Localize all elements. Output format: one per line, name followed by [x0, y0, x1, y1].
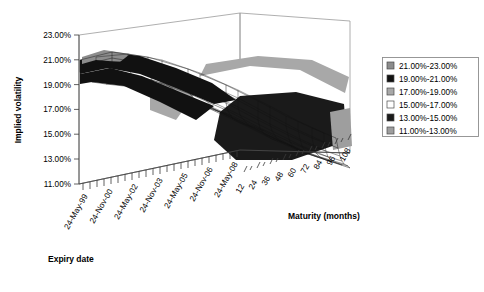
x-tick-label-4: 24-May-05 [162, 171, 190, 210]
legend-swatch-3[interactable] [387, 101, 394, 108]
x-axis-title: Expiry date [48, 254, 94, 264]
legend-swatch-4[interactable] [387, 114, 394, 121]
legend-swatch-2[interactable] [387, 88, 394, 95]
legend-label-3: 15.00%-17.00% [399, 101, 457, 110]
y-tick-label-0: 23.00% [43, 31, 71, 40]
surface-mesh [80, 50, 352, 168]
legend: 21.00%-23.00% 19.00%-21.00% 17.00%-19.00… [383, 58, 479, 137]
legend-swatch-5[interactable] [387, 127, 394, 134]
y-tick-label-6: 11.00% [44, 180, 71, 189]
y-axis: 23.00% 21.00% 19.00% 17.00% 15.00% 13.00… [13, 31, 79, 189]
legend-label-4: 13.00%-15.00% [399, 114, 457, 123]
z-tick-label-5: 72 [299, 162, 312, 175]
x-tick-label-3: 24-Nov-03 [138, 176, 165, 214]
z-tick-label-1: 24 [247, 178, 260, 191]
z-tick-label-2: 36 [260, 174, 273, 187]
y-tick-label-1: 21.00% [43, 56, 71, 65]
z-tick-label-4: 60 [286, 166, 299, 179]
y-tick-label-2: 19.00% [43, 81, 71, 90]
x-tick-label-0: 24-May-99 [62, 192, 90, 231]
x-axis-expiry: 24-May-99 24-Nov-00 24-May-02 24-Nov-03 … [48, 150, 240, 264]
x-tick-label-1: 24-Nov-00 [88, 187, 115, 225]
volatility-surface-chart: 23.00% 21.00% 19.00% 17.00% 15.00% 13.00… [0, 0, 484, 292]
legend-label-2: 17.00%-19.00% [399, 88, 457, 97]
legend-label-1: 19.00%-21.00% [399, 75, 457, 84]
y-tick-label-4: 15.00% [43, 130, 71, 139]
z-tick-label-8: 108 [338, 146, 353, 163]
x-tick-label-6: 24-May-08 [212, 160, 240, 199]
band-11-13 [330, 108, 352, 150]
y-tick-label-3: 17.00% [43, 105, 71, 114]
y-axis-ticks [74, 35, 79, 184]
legend-label-0: 21.00%-23.00% [399, 62, 457, 71]
legend-swatch-0[interactable] [387, 62, 394, 69]
x-tick-label-5: 24-Nov-06 [188, 165, 215, 203]
y-tick-label-5: 13.00% [43, 155, 71, 164]
z-tick-label-6: 84 [312, 158, 325, 171]
x-tick-label-2: 24-May-02 [112, 182, 140, 221]
band-13-15 [214, 92, 347, 160]
legend-label-5: 11.00%-13.00% [399, 127, 457, 136]
z-axis-title: Maturity (months) [288, 211, 360, 221]
z-tick-label-3: 48 [273, 170, 286, 183]
legend-swatch-1[interactable] [387, 75, 394, 82]
y-axis-title: Implied volatility [13, 76, 23, 143]
chart-canvas: 23.00% 21.00% 19.00% 17.00% 15.00% 13.00… [0, 0, 484, 292]
z-tick-label-0: 12 [234, 182, 247, 195]
